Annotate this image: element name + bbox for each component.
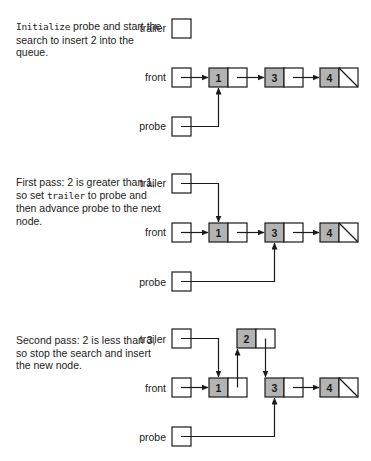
node-value: 4 [327,72,333,84]
probe-arrow [181,243,275,282]
node-value: 3 [272,382,278,394]
node-value: 1 [216,382,222,394]
node-value: 4 [327,382,333,394]
trailer-box [172,19,191,38]
node-value: 3 [272,227,278,239]
node-value: 2 [244,333,250,345]
probe-arrow [181,398,275,437]
node-value: 3 [272,72,278,84]
node-value: 1 [216,227,222,239]
node-value: 4 [327,227,333,239]
linked-list-diagram: 1 3 4 1 3 4 1 2 3 4 [0,0,371,461]
node-value: 1 [216,72,222,84]
